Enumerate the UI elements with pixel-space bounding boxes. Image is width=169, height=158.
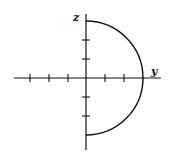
y-axis-label: y: [150, 65, 159, 78]
z-axis-label: z: [72, 11, 80, 24]
diagram-canvas: z y: [0, 0, 169, 158]
